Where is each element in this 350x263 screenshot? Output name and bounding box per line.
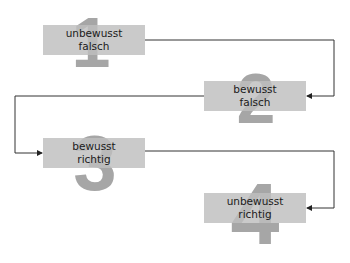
stage-4-line2: richtig [238, 208, 271, 221]
stage-3-line1: bewusst [72, 140, 115, 153]
stage-3-box: bewusst richtig [43, 138, 145, 168]
stage-1-line2: falsch [79, 40, 110, 53]
stage-3-line2: richtig [77, 153, 110, 166]
stage-4-box: unbewusst richtig [204, 193, 306, 223]
stage-4-line1: unbewusst [227, 195, 284, 208]
stage-1-line1: unbewusst [66, 27, 123, 40]
stage-2-line2: falsch [240, 96, 271, 109]
stage-1-box: unbewusst falsch [43, 25, 145, 55]
stage-2-line1: bewusst [233, 83, 276, 96]
stage-2-box: bewusst falsch [204, 81, 306, 111]
